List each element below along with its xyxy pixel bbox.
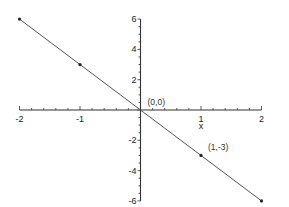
point-annotation: (0,0) [148,97,166,107]
y-tick-label: 6 [131,14,136,24]
x-tick-label: -1 [76,114,84,124]
data-point-marker [18,18,21,21]
data-point-marker [78,63,81,66]
y-tick-label: 2 [131,75,136,85]
data-point-marker [260,199,263,202]
y-tick-label: -4 [128,166,136,176]
y-tick-label: -2 [128,135,136,145]
data-point-marker [199,154,202,157]
y-tick-label: 4 [131,44,136,54]
x-tick-label: -2 [15,114,23,124]
x-axis-label: x [199,121,204,131]
point-annotation: (1,-3) [208,142,228,152]
x-tick-label: 2 [259,114,264,124]
line-chart: -2-112642-2-4-6x(0,0)(1,-3) [0,0,289,207]
y-tick-label: -6 [128,196,136,206]
